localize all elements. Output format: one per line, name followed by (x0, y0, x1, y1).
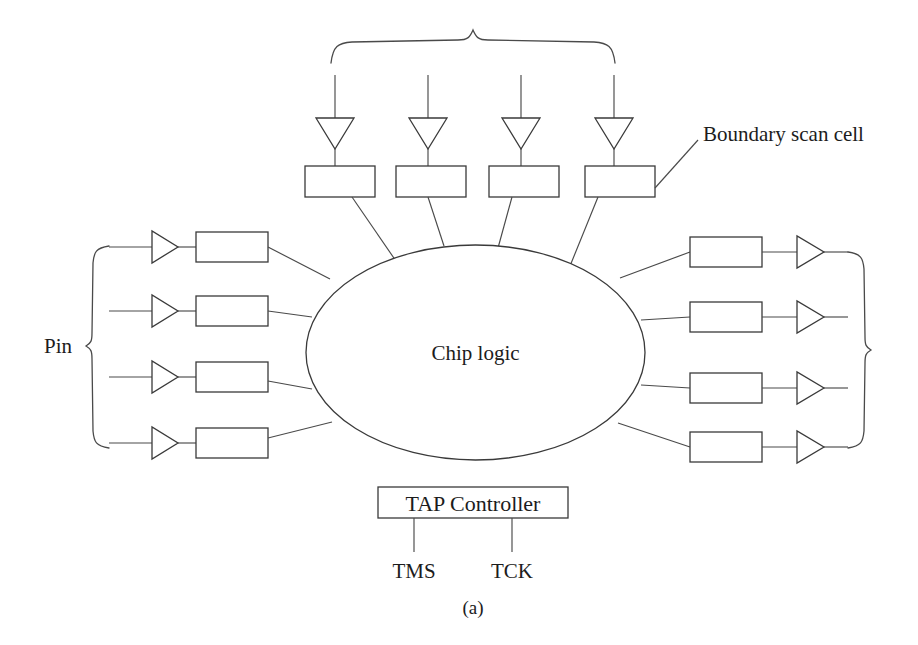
left-row-3 (109, 361, 312, 393)
right-row-3 (641, 372, 848, 404)
input-buffer-triangle-4 (595, 118, 633, 149)
boundary-scan-cell-left-3 (196, 362, 268, 392)
boundary-scan-cell-left-4 (196, 428, 268, 458)
right-output-buffer-triangle-2 (797, 301, 824, 333)
top-pin-3 (489, 75, 559, 248)
right-chip-to-cell-4 (618, 423, 690, 447)
right-chip-to-cell-3 (641, 385, 690, 388)
left-pin-brace: Pin (44, 246, 109, 448)
boundary-scan-cell-callout: Boundary scan cell (655, 122, 864, 188)
tms-label: TMS (392, 559, 435, 583)
left-row-2 (109, 295, 312, 327)
top-pin-2 (396, 75, 466, 246)
left-row-4 (109, 422, 332, 459)
right-chip-to-cell-2 (641, 317, 690, 320)
left-row-1 (109, 231, 330, 279)
left-cell-to-chip-3 (268, 381, 312, 389)
right-output-buffer-triangle-3 (797, 372, 824, 404)
input-buffer-triangle-3 (502, 118, 540, 149)
chip-logic: Chip logic (306, 245, 645, 460)
boundary-scan-cell-right-2 (690, 302, 762, 332)
top-cell-to-chip-2 (428, 197, 444, 246)
left-cell-to-chip-1 (268, 247, 330, 279)
left-cell-to-chip-4 (268, 422, 332, 438)
right-output-buffer-triangle-1 (797, 236, 824, 268)
left-input-buffer-triangle-3 (152, 361, 178, 393)
boundary-scan-diagram: Boundary scan cell Chip logic Pin (0, 0, 918, 645)
top-pin-4 (570, 75, 655, 266)
top-cell-to-chip-3 (498, 197, 512, 248)
figure-caption: (a) (462, 597, 483, 619)
top-cell-to-chip-1 (352, 197, 398, 264)
left-cell-to-chip-2 (268, 311, 312, 317)
right-pin-brace (848, 252, 871, 448)
right-output-buffer-triangle-4 (797, 431, 824, 463)
left-input-buffer-triangle-4 (152, 427, 178, 459)
right-row-1 (620, 236, 848, 278)
callout-label: Boundary scan cell (703, 122, 864, 146)
tck-label: TCK (491, 559, 533, 583)
pin-label: Pin (44, 334, 73, 358)
input-buffer-triangle-1 (316, 118, 354, 149)
boundary-scan-cell-top-4 (585, 166, 655, 197)
boundary-scan-cell-left-2 (196, 296, 268, 326)
top-brace (331, 30, 615, 63)
left-input-buffer-triangle-1 (152, 231, 178, 263)
right-row-4 (618, 423, 848, 463)
right-chip-to-cell-1 (620, 252, 690, 278)
tap-controller: TAP Controller TMS TCK (378, 487, 568, 583)
boundary-scan-cell-top-2 (396, 166, 466, 197)
boundary-scan-cell-top-1 (305, 166, 375, 197)
top-pin-1 (305, 75, 398, 264)
tap-controller-label: TAP Controller (406, 491, 542, 516)
callout-leader-line (655, 140, 698, 188)
boundary-scan-cell-top-3 (489, 166, 559, 197)
left-input-buffer-triangle-2 (152, 295, 178, 327)
boundary-scan-cell-right-1 (690, 237, 762, 267)
top-cell-to-chip-4 (570, 197, 598, 266)
boundary-scan-cell-left-1 (196, 232, 268, 262)
boundary-scan-cell-right-4 (690, 432, 762, 462)
right-row-2 (641, 301, 848, 333)
figure-canvas: Boundary scan cell Chip logic Pin (0, 0, 918, 645)
chip-logic-label: Chip logic (431, 341, 519, 365)
boundary-scan-cell-right-3 (690, 373, 762, 403)
input-buffer-triangle-2 (409, 118, 447, 149)
